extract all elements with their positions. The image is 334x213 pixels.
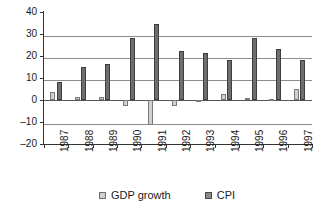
x-axis-tick-mark	[44, 144, 45, 148]
x-axis-tick-label: 1994	[231, 130, 241, 152]
bar-gdp-growth-1991	[148, 100, 153, 125]
x-axis-tick-label: 1987	[60, 130, 70, 152]
x-axis-tick-label: 1990	[133, 130, 143, 152]
bar-cpi-1995	[252, 38, 257, 100]
x-axis-tick-mark	[215, 144, 216, 148]
bar-chart: 403020100–10–20 198719881989199019911992…	[0, 0, 334, 213]
x-axis-tick-mark	[312, 144, 313, 148]
bar-gdp-growth-1997	[294, 89, 299, 100]
bar-cpi-1989	[105, 64, 110, 100]
plot-area	[44, 12, 312, 144]
y-axis-tick-label: 40	[3, 7, 37, 17]
bar-gdp-growth-1990	[123, 100, 128, 106]
x-axis-tick-mark	[93, 144, 94, 148]
x-axis-tick-mark	[166, 144, 167, 148]
x-axis-tick-mark	[288, 144, 289, 148]
bar-cpi-1987	[57, 82, 62, 100]
bar-cpi-1988	[81, 67, 86, 100]
bar-cpi-1994	[227, 60, 232, 100]
legend-item-cpi[interactable]: CPI	[205, 190, 235, 201]
bar-gdp-growth-1995	[245, 98, 250, 100]
y-axis-tick-label: –20	[3, 139, 37, 149]
legend-label-gdp-growth: GDP growth	[111, 190, 171, 201]
bar-cpi-1997	[300, 60, 305, 100]
x-axis-tick-label: 1995	[255, 130, 265, 152]
gridline	[44, 124, 312, 125]
x-axis-tick-mark	[263, 144, 264, 148]
x-axis-tick-mark	[141, 144, 142, 148]
legend-label-cpi: CPI	[217, 190, 235, 201]
x-axis-tick-mark	[239, 144, 240, 148]
bar-cpi-1992	[179, 51, 184, 100]
cpi-swatch-icon	[205, 192, 212, 199]
y-axis-tick-label: 20	[3, 51, 37, 61]
x-axis-tick-mark	[68, 144, 69, 148]
x-axis-tick-label: 1991	[158, 130, 168, 152]
bar-gdp-growth-1988	[75, 97, 80, 100]
bar-cpi-1996	[276, 49, 281, 100]
x-axis-tick-label: 1988	[85, 130, 95, 152]
y-axis-tick-label: 0	[3, 95, 37, 105]
bar-gdp-growth-1992	[172, 100, 177, 106]
bar-gdp-growth-1987	[50, 92, 55, 100]
bar-gdp-growth-1994	[221, 94, 226, 100]
x-axis-tick-label: 1992	[182, 130, 192, 152]
y-axis-tick-label: 10	[3, 73, 37, 83]
chart-legend: GDP growth CPI	[0, 190, 334, 201]
legend-item-gdp-growth[interactable]: GDP growth	[99, 190, 171, 201]
x-axis-tick-mark	[117, 144, 118, 148]
y-axis-tick-label: –10	[3, 117, 37, 127]
bar-gdp-growth-1993	[196, 100, 201, 102]
x-axis-tick-label: 1996	[279, 130, 289, 152]
y-axis-tick-label: 30	[3, 29, 37, 39]
gridline	[44, 36, 312, 37]
bar-cpi-1991	[154, 24, 159, 100]
bar-cpi-1993	[203, 53, 208, 100]
x-axis-tick-label: 1997	[304, 130, 314, 152]
bar-gdp-growth-1989	[99, 97, 104, 100]
x-axis-tick-mark	[190, 144, 191, 148]
x-axis-tick-label: 1993	[206, 130, 216, 152]
bar-cpi-1990	[130, 38, 135, 100]
gdp-swatch-icon	[99, 192, 106, 199]
bar-gdp-growth-1996	[269, 99, 274, 101]
x-axis-tick-label: 1989	[109, 130, 119, 152]
